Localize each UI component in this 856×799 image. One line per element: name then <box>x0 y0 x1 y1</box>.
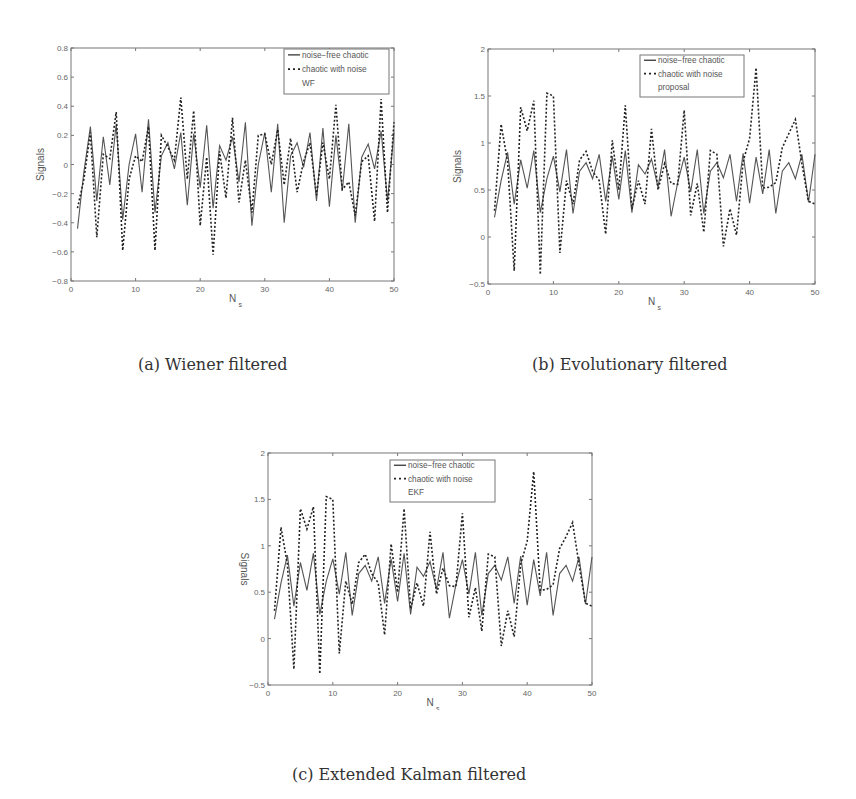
subplot-a: 01020304050−0.8−0.6−0.4−0.200.20.40.60.8… <box>0 0 428 310</box>
legend-entry-label: proposal <box>658 83 690 92</box>
x-tick-label: 20 <box>614 288 623 297</box>
y-tick-label: −0.6 <box>52 248 68 257</box>
x-tick-label: 50 <box>588 689 597 698</box>
series-noise-free-line <box>275 552 593 619</box>
chart-evolutionary-filtered: 01020304050−0.500.511.52NsSignalsnoise−f… <box>428 0 856 310</box>
y-tick-label: 0.8 <box>57 44 69 53</box>
y-tick-label: −0.2 <box>52 190 68 199</box>
x-tick-label: 0 <box>266 689 271 698</box>
legend: noise−free chaoticchaotic with noiseprop… <box>640 55 744 97</box>
y-tick-label: 0.4 <box>57 102 69 111</box>
y-tick-label: 1.5 <box>474 92 486 101</box>
x-tick-label: 10 <box>131 285 140 294</box>
caption-b: (b) Evolutionary filtered <box>532 355 727 374</box>
x-tick-label: 50 <box>390 285 399 294</box>
y-tick-label: 2 <box>261 449 266 458</box>
legend-entry-label: EKF <box>408 488 424 497</box>
x-tick-label: 20 <box>393 689 402 698</box>
x-axis-label: N <box>229 293 236 304</box>
y-axis-label: Signals <box>239 553 250 586</box>
legend-entry-label: chaotic with noise <box>408 475 473 484</box>
legend: noise−free chaoticchaotic with noiseEKF <box>390 460 495 502</box>
x-tick-label: 30 <box>260 285 269 294</box>
subplot-b: 01020304050−0.500.511.52NsSignalsnoise−f… <box>428 0 856 310</box>
x-tick-label: 50 <box>811 288 820 297</box>
x-axis-label-subscript: s <box>658 304 662 310</box>
x-tick-label: 40 <box>325 285 334 294</box>
x-tick-label: 40 <box>745 288 754 297</box>
x-tick-label: 20 <box>196 285 205 294</box>
x-axis-label-subscript: s <box>239 301 243 308</box>
series-noisy-line <box>78 98 395 255</box>
chart-extended-kalman-filtered: 01020304050−0.500.511.52NsSignalsnoise−f… <box>200 400 628 710</box>
y-tick-label: 0.6 <box>57 73 69 82</box>
legend-entry-label: noise−free chaotic <box>408 461 475 470</box>
legend: noise−free chaoticchaotic with noiseWF <box>284 49 389 94</box>
y-tick-label: 1.5 <box>254 495 266 504</box>
y-tick-label: −0.5 <box>249 681 265 690</box>
x-tick-label: 40 <box>523 689 532 698</box>
legend-entry-label: chaotic with noise <box>658 70 723 79</box>
y-tick-label: 0 <box>64 161 69 170</box>
x-axis-label: N <box>648 296 655 307</box>
chart-wiener-filtered: 01020304050−0.8−0.6−0.4−0.200.20.40.60.8… <box>0 0 428 310</box>
x-tick-label: 30 <box>458 689 467 698</box>
y-tick-label: −0.8 <box>52 277 68 286</box>
y-tick-label: 0 <box>481 233 486 242</box>
series-noise-free-line <box>78 119 395 228</box>
y-tick-label: 2 <box>481 45 486 54</box>
y-axis-label: Signals <box>452 150 463 183</box>
legend-entry-label: noise−free chaotic <box>658 56 725 65</box>
y-tick-label: 1 <box>261 542 266 551</box>
subplot-c: 01020304050−0.500.511.52NsSignalsnoise−f… <box>200 400 628 710</box>
x-axis-label-subscript: s <box>436 705 440 710</box>
legend-entry-label: WF <box>302 79 315 88</box>
x-tick-label: 30 <box>680 288 689 297</box>
y-tick-label: 0.5 <box>254 588 266 597</box>
x-tick-label: 10 <box>549 288 558 297</box>
x-tick-label: 0 <box>486 288 491 297</box>
y-tick-label: 0.5 <box>474 186 486 195</box>
y-tick-label: 1 <box>481 139 486 148</box>
y-axis-label: Signals <box>35 148 46 181</box>
y-tick-label: 0.2 <box>57 131 69 140</box>
legend-entry-label: chaotic with noise <box>302 65 367 74</box>
caption-c: (c) Extended Kalman filtered <box>292 765 526 784</box>
caption-a: (a) Wiener filtered <box>138 355 287 374</box>
y-tick-label: −0.4 <box>52 219 68 228</box>
x-tick-label: 10 <box>328 689 337 698</box>
x-axis-label: N <box>426 697 433 708</box>
legend-entry-label: noise−free chaotic <box>302 51 369 60</box>
x-tick-label: 0 <box>69 285 74 294</box>
y-tick-label: −0.5 <box>469 280 485 289</box>
y-tick-label: 0 <box>261 635 266 644</box>
